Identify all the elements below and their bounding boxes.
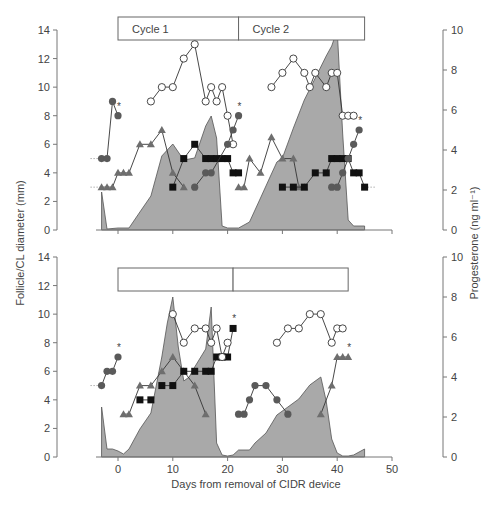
- square-marker: [235, 169, 242, 176]
- square-marker: [180, 368, 187, 375]
- left-tick-label: 8: [44, 110, 50, 122]
- filled-circle-marker: [109, 368, 116, 375]
- open-circle-marker: [213, 325, 220, 332]
- open-circle-marker: [279, 69, 286, 76]
- right-tick-label: 4: [451, 144, 457, 156]
- filled-circle-marker: [235, 112, 242, 119]
- left-tick-label: 12: [38, 53, 50, 65]
- square-marker: [136, 396, 143, 403]
- bottom-panel: 02468101214024681001020304050***: [38, 251, 464, 475]
- square-marker: [147, 396, 154, 403]
- open-circle-marker: [328, 339, 335, 346]
- open-circle-marker: [306, 84, 313, 91]
- square-marker: [290, 184, 297, 191]
- x-tick-label: 20: [221, 463, 233, 475]
- triangle-marker: [158, 126, 166, 133]
- open-circle-marker: [323, 84, 330, 91]
- right-tick-label: 0: [451, 451, 457, 463]
- x-tick-label: 40: [331, 463, 343, 475]
- filled-circle-marker: [240, 411, 247, 418]
- square-marker: [191, 368, 198, 375]
- open-circle-marker: [213, 98, 220, 105]
- triangle-marker: [240, 183, 248, 190]
- cycle-box: [118, 268, 233, 291]
- open-circle-marker: [158, 84, 165, 91]
- square-marker: [169, 382, 176, 389]
- square-marker: [323, 169, 330, 176]
- left-tick-label: 8: [44, 337, 50, 349]
- filled-circle-marker: [246, 396, 253, 403]
- series-line: [173, 314, 228, 357]
- open-circle-marker: [350, 112, 357, 119]
- square-marker: [356, 169, 363, 176]
- cycle-label: Cycle 2: [253, 23, 290, 35]
- left-tick-label: 4: [44, 394, 50, 406]
- left-tick-label: 2: [44, 422, 50, 434]
- open-circle-marker: [301, 69, 308, 76]
- square-marker: [301, 184, 308, 191]
- right-tick-label: 2: [451, 184, 457, 196]
- triangle-marker: [267, 133, 275, 140]
- open-circle-marker: [202, 98, 209, 105]
- right-tick-label: 6: [451, 331, 457, 343]
- open-circle-marker: [290, 55, 297, 62]
- filled-circle-marker: [103, 155, 110, 162]
- ovulation-asterisk: *: [117, 342, 121, 353]
- open-circle-marker: [147, 98, 154, 105]
- filled-circle-marker: [284, 411, 291, 418]
- series-line: [102, 101, 118, 158]
- filled-circle-marker: [208, 169, 215, 176]
- left-tick-label: 10: [38, 81, 50, 93]
- right-tick-label: 8: [451, 291, 457, 303]
- filled-circle-marker: [229, 126, 236, 133]
- open-circle-marker: [169, 311, 176, 318]
- open-circle-marker: [312, 69, 319, 76]
- filled-circle-marker: [350, 141, 357, 148]
- square-marker: [180, 155, 187, 162]
- square-marker: [224, 155, 231, 162]
- triangle-marker: [109, 183, 117, 190]
- open-circle-marker: [273, 339, 280, 346]
- square-marker: [208, 368, 215, 375]
- open-circle-marker: [219, 84, 226, 91]
- open-circle-marker: [317, 311, 324, 318]
- square-marker: [361, 184, 368, 191]
- filled-circle-marker: [334, 184, 341, 191]
- triangle-marker: [136, 140, 144, 147]
- filled-circle-marker: [262, 382, 269, 389]
- x-tick-label: 50: [386, 463, 398, 475]
- square-marker: [279, 184, 286, 191]
- triangle-marker: [344, 353, 352, 360]
- right-tick-label: 4: [451, 371, 457, 383]
- filled-circle-marker: [273, 396, 280, 403]
- right-tick-label: 6: [451, 104, 457, 116]
- x-axis-title: Days from removal of CIDR device: [171, 478, 340, 490]
- left-tick-label: 6: [44, 138, 50, 150]
- figure: 024681012140246810Cycle 1Cycle 2*** 0246…: [0, 0, 498, 510]
- triangle-marker: [246, 155, 254, 162]
- filled-circle-marker: [251, 382, 258, 389]
- top-panel: 024681012140246810Cycle 1Cycle 2***: [38, 17, 464, 236]
- open-circle-marker: [295, 325, 302, 332]
- filled-circle-marker: [114, 112, 121, 119]
- filled-circle-marker: [191, 184, 198, 191]
- square-marker: [169, 184, 176, 191]
- open-circle-marker: [208, 339, 215, 346]
- open-circle-marker: [202, 325, 209, 332]
- open-circle-marker: [191, 325, 198, 332]
- filled-circle-marker: [114, 353, 121, 360]
- square-marker: [158, 382, 165, 389]
- open-circle-marker: [268, 84, 275, 91]
- filled-circle-marker: [224, 141, 231, 148]
- left-tick-label: 2: [44, 195, 50, 207]
- left-axis-title: Follicle/CL diameter (mm): [14, 180, 26, 306]
- open-circle-marker: [180, 339, 187, 346]
- left-tick-label: 0: [44, 451, 50, 463]
- filled-circle-marker: [339, 169, 346, 176]
- filled-circle-marker: [345, 155, 352, 162]
- left-tick-label: 10: [38, 308, 50, 320]
- right-tick-label: 10: [451, 24, 463, 36]
- ovulation-asterisk: *: [347, 342, 351, 353]
- open-circle-marker: [180, 55, 187, 62]
- open-circle-marker: [224, 339, 231, 346]
